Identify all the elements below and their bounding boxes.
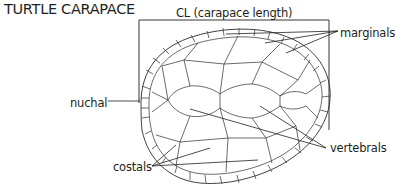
carapace-length-bracket [139, 20, 329, 130]
vertebral-leader-2 [260, 106, 326, 148]
leader-lines [108, 31, 338, 166]
marginal-leader-3 [286, 31, 338, 53]
vertebral-leader-1 [190, 109, 326, 148]
